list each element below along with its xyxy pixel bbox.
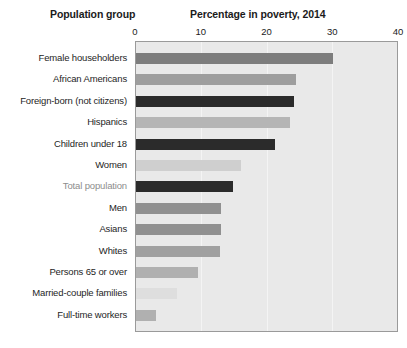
plot-area bbox=[135, 41, 398, 332]
bar-persons-65-or-over bbox=[136, 267, 198, 278]
label-african-americans: African Americans bbox=[53, 73, 131, 85]
label-married-couple-families: Married-couple families bbox=[32, 287, 131, 299]
x-axis-ticks: 010203040 bbox=[135, 26, 398, 40]
label-men: Men bbox=[109, 202, 131, 214]
label-whites: Whites bbox=[99, 245, 131, 257]
x-tick-0: 0 bbox=[132, 26, 137, 37]
label-full-time-workers: Full-time workers bbox=[57, 309, 131, 321]
x-tick-10: 10 bbox=[195, 26, 206, 37]
gridline bbox=[332, 42, 333, 331]
label-total-population: Total population bbox=[63, 180, 131, 192]
bar-african-americans bbox=[136, 74, 296, 85]
label-persons-65-or-over: Persons 65 or over bbox=[49, 266, 131, 278]
bar-whites bbox=[136, 246, 220, 257]
label-asians: Asians bbox=[99, 223, 131, 235]
label-children-under-18: Children under 18 bbox=[54, 138, 131, 150]
bar-women bbox=[136, 160, 241, 171]
bar-married-couple-families bbox=[136, 288, 177, 299]
label-foreign-born-not-citizens: Foreign-born (not citizens) bbox=[20, 95, 131, 107]
bar-female-householders bbox=[136, 53, 333, 64]
population-group-header: Population group bbox=[50, 8, 135, 20]
label-hispanics: Hispanics bbox=[87, 116, 131, 128]
x-tick-30: 30 bbox=[327, 26, 338, 37]
bar-men bbox=[136, 203, 221, 214]
poverty-bar-chart: Population group Percentage in poverty, … bbox=[0, 0, 407, 348]
bar-children-under-18 bbox=[136, 139, 275, 150]
x-tick-40: 40 bbox=[393, 26, 404, 37]
percentage-in-poverty-header: Percentage in poverty, 2014 bbox=[190, 8, 325, 20]
label-women: Women bbox=[95, 159, 131, 171]
category-label-column: Female householdersAfrican AmericansFore… bbox=[0, 41, 131, 332]
bar-hispanics bbox=[136, 117, 290, 128]
bar-total-population bbox=[136, 181, 233, 192]
label-female-householders: Female householders bbox=[38, 52, 131, 64]
x-tick-20: 20 bbox=[261, 26, 272, 37]
bar-full-time-workers bbox=[136, 310, 156, 321]
bar-asians bbox=[136, 224, 221, 235]
bar-foreign-born-not-citizens bbox=[136, 96, 294, 107]
